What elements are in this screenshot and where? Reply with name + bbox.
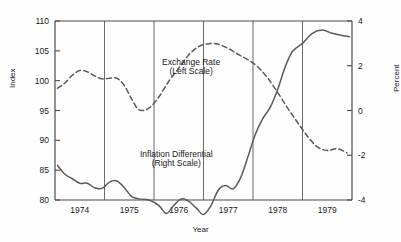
x-axis-title: Year xyxy=(0,225,401,234)
gridlines xyxy=(105,21,303,200)
y-axis-right-title: Percent xyxy=(392,64,401,92)
y-tick-label-left: 100 xyxy=(35,76,49,86)
y-tick-label-left: 85 xyxy=(40,165,50,175)
annotation-label: (Right Scale) xyxy=(152,158,201,168)
y-tick-label-left: 95 xyxy=(40,106,50,116)
x-tick-label: 1978 xyxy=(268,205,287,215)
x-tick-label: 1977 xyxy=(219,205,238,215)
y-tick-label-left: 80 xyxy=(40,195,50,205)
y-tick-label-right: -4 xyxy=(358,195,366,205)
series-annotations: Exchange Rate(Left Scale)Inflation Diffe… xyxy=(140,57,220,168)
exchange-rate-inflation-chart: 80859095100105110-4-20241974197519761977… xyxy=(0,0,401,242)
y-axis-left-title: Index xyxy=(8,68,17,88)
chart-container: 80859095100105110-4-20241974197519761977… xyxy=(0,0,401,242)
y-tick-label-left: 110 xyxy=(35,16,49,26)
x-tick-label: 1974 xyxy=(70,205,89,215)
x-tick-label: 1975 xyxy=(120,205,139,215)
y-tick-label-right: 4 xyxy=(358,16,363,26)
y-tick-label-left: 90 xyxy=(40,135,50,145)
y-tick-label-right: 0 xyxy=(358,106,363,116)
annotation-label: (Left Scale) xyxy=(169,66,213,76)
y-tick-label-right: -2 xyxy=(358,150,366,160)
x-tick-label: 1979 xyxy=(318,205,337,215)
y-tick-label-left: 105 xyxy=(35,46,49,56)
y-tick-label-right: 2 xyxy=(358,61,363,71)
